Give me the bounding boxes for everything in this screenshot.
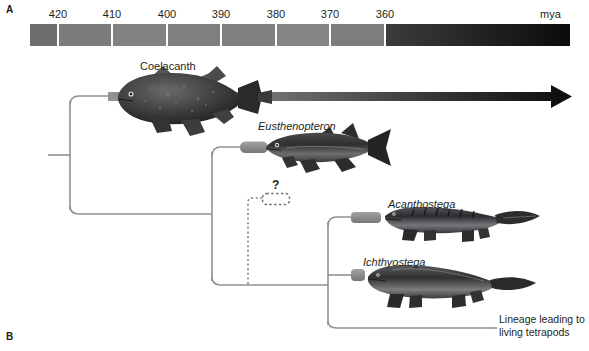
branch-to-coelacanth (70, 96, 108, 105)
living-tetrapods-note: Lineage leading to living tetrapods (499, 313, 589, 338)
eusthenopteron-branch-terminal (240, 142, 268, 154)
uncertain-taxon-placeholder (263, 194, 290, 205)
branch-to-acanthostega (328, 217, 351, 226)
branch-node2-to-node3 (212, 277, 328, 285)
branch-to-living-tetrapods (328, 321, 490, 328)
taxon-label-ichthyostega: Ichthyostega (363, 256, 425, 268)
branch-node1-to-node2 (70, 206, 212, 214)
branch-uncertain-dotted (248, 198, 262, 284)
ichthyostega-illustration (368, 265, 536, 308)
coelacanth-illustration (118, 66, 272, 136)
taxon-label-acanthostega: Acanthostega (388, 198, 455, 210)
uncertainty-question-mark: ? (272, 178, 279, 192)
acanthostega-illustration (385, 207, 540, 242)
taxon-label-coelacanth: Coelacanth (140, 60, 196, 72)
branch-to-eusthenopteron (212, 147, 240, 156)
acanthostega-branch-terminal (351, 212, 381, 223)
taxon-label-eusthenopteron: Eusthenopteron (258, 120, 336, 132)
ichthyostega-branch-terminal (351, 269, 365, 281)
